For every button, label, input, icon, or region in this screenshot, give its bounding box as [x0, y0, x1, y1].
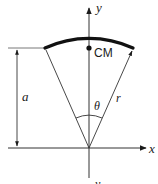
x-axis-label: x [148, 141, 155, 156]
center-of-mass-point [86, 45, 91, 50]
left-radius-line [46, 50, 89, 148]
arc-center-of-mass-diagram: y CM a θ r x y [0, 0, 158, 184]
angle-theta-label: θ [94, 99, 100, 113]
distance-a-label: a [22, 89, 29, 104]
center-of-mass-label: CM [94, 46, 113, 60]
y-axis-label: y [94, 0, 102, 15]
y-axis-bottom-label: y [94, 177, 101, 184]
radius-r-label: r [116, 91, 121, 105]
